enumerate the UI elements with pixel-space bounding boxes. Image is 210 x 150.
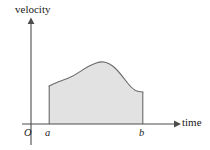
y-axis-label: velocity bbox=[15, 4, 50, 15]
upper-bound-label-b: b bbox=[139, 128, 144, 139]
velocity-time-figure: velocity time O a b bbox=[0, 0, 210, 150]
shaded-area-under-curve bbox=[49, 62, 143, 124]
x-axis-label: time bbox=[182, 117, 202, 128]
lower-bound-label-a: a bbox=[45, 128, 50, 139]
x-axis-arrowhead-icon bbox=[174, 121, 181, 128]
y-axis-arrowhead-icon bbox=[28, 18, 35, 25]
origin-label: O bbox=[24, 128, 32, 139]
